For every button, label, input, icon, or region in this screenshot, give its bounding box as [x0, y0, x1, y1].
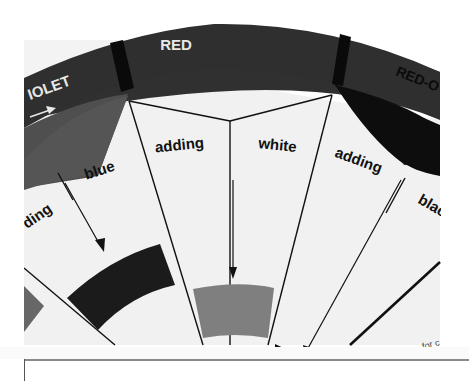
ring-label-red: RED: [160, 36, 192, 53]
page-corner-tick: [24, 359, 25, 381]
gray-swatch: [193, 284, 274, 338]
color-wheel-photo: RED IOLET RED-O: [0, 0, 469, 381]
page-bottom-rule: [24, 359, 469, 361]
